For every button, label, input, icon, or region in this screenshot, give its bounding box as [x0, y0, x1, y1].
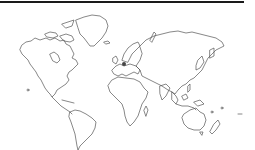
pacific-island-2: [221, 107, 223, 109]
world-map-figure: [0, 0, 255, 150]
pacific-island-1: [211, 111, 213, 113]
central-america: [52, 97, 72, 114]
asia: [136, 31, 224, 94]
madagascar: [144, 106, 148, 116]
caribbean: [62, 100, 74, 103]
new-guinea: [194, 100, 204, 106]
scandinavia: [122, 42, 140, 62]
british-isles: [113, 56, 118, 64]
australia: [182, 108, 206, 130]
novaya-zemlya: [150, 32, 156, 42]
africa: [108, 77, 148, 126]
borneo: [182, 94, 188, 100]
canadian-arctic-island-3: [62, 20, 74, 28]
tasmania: [200, 132, 203, 135]
new-zealand: [210, 120, 220, 134]
greenland: [76, 15, 108, 46]
hawaii: [27, 89, 29, 91]
hudson-bay: [50, 52, 60, 63]
iceland: [104, 41, 110, 44]
south-america: [69, 110, 96, 150]
world-map: [0, 0, 255, 150]
north-america: [20, 38, 78, 97]
india: [160, 84, 170, 100]
philippines: [188, 84, 190, 92]
canadian-arctic-islands: [45, 32, 58, 38]
map-marker-europe: [122, 62, 126, 66]
